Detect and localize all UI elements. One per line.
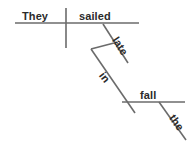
word-label-object: fall <box>140 90 156 101</box>
word-label-verb: sailed <box>79 11 111 22</box>
sentence-diagram: They sailed late in fall the <box>0 0 196 142</box>
preposition-bend-line <box>91 43 114 49</box>
preposition-slant-line <box>91 49 135 113</box>
word-label-subject: They <box>22 11 48 22</box>
